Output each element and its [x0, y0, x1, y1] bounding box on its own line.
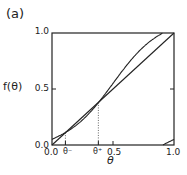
x-tick-theta-plus: θ⁺	[93, 147, 102, 156]
y-tick-1: 1.0	[27, 26, 49, 36]
y-tick-0.5: 0.5	[27, 83, 49, 93]
x-tick-1: 1.0	[166, 147, 180, 157]
y-axis-label: f(θ)	[3, 80, 22, 93]
x-tick-theta-minus: θ⁻	[63, 147, 72, 156]
identity-line	[52, 33, 174, 145]
x-tick-0: 0.0	[44, 147, 58, 157]
x-axis-label: θ	[107, 154, 114, 167]
axis-ticks	[52, 89, 174, 145]
